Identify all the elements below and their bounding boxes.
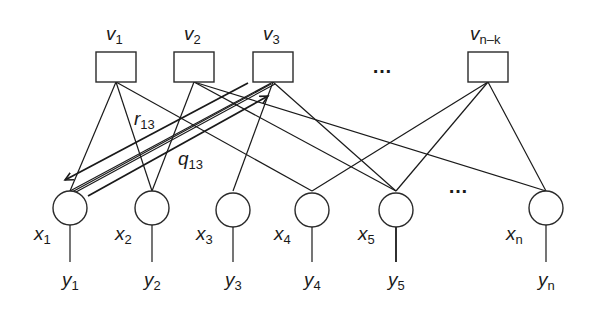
check-node-v1	[96, 52, 136, 82]
edge-v2-xn	[194, 82, 546, 191]
variable-node-x1	[53, 191, 87, 225]
edge-v2-x5	[194, 82, 396, 191]
label-y5: y5	[386, 269, 405, 293]
variable-node-x4	[295, 193, 329, 227]
observation-links	[70, 225, 546, 262]
arrow-q13-icon	[88, 96, 268, 196]
label-xn: xn	[505, 223, 523, 247]
label-x2: x2	[114, 223, 132, 247]
label-y3: y3	[223, 269, 242, 293]
edge-vnk-x5	[396, 82, 488, 191]
check-nodes	[96, 52, 508, 82]
label-y2: y2	[142, 269, 161, 293]
factor-graph: v1 v2 v3 vn–k … r13 q13 x1 x2 x3 x4 x5 x…	[0, 0, 589, 309]
check-node-vnk	[468, 52, 508, 82]
label-yn: yn	[536, 269, 555, 293]
label-r13: r13	[134, 108, 155, 132]
arrow-r13-icon	[65, 83, 248, 180]
check-ellipsis: …	[372, 55, 392, 77]
label-y1: y1	[60, 269, 79, 293]
variable-nodes	[53, 191, 563, 227]
variable-node-xn	[529, 191, 563, 225]
label-y4: y4	[302, 269, 321, 293]
label-v1: v1	[106, 23, 123, 47]
label-x5: x5	[357, 223, 375, 247]
label-x1: x1	[33, 223, 51, 247]
variable-ellipsis: …	[448, 175, 468, 197]
label-v3: v3	[263, 23, 280, 47]
edge-v3-x1	[70, 82, 273, 191]
variable-node-x5	[379, 193, 413, 227]
variable-node-x2	[135, 191, 169, 225]
edge-v3-x3	[233, 82, 273, 191]
label-x3: x3	[195, 223, 213, 247]
check-node-v3	[253, 52, 293, 82]
edges	[70, 82, 546, 191]
observation-labels: y1 y2 y3 y4 y5 yn	[60, 269, 555, 293]
label-x4: x4	[273, 223, 291, 247]
edge-vnk-xn	[488, 82, 546, 191]
check-node-v2	[174, 52, 214, 82]
variable-node-x3	[216, 193, 250, 227]
edge-v2-x2	[152, 82, 194, 191]
highlighted-edge-v3-x1	[72, 84, 275, 192]
edge-v3-x5	[273, 82, 396, 191]
label-vnk: vn–k	[470, 23, 501, 47]
check-labels: v1 v2 v3 vn–k …	[106, 23, 501, 77]
label-q13: q13	[178, 148, 203, 172]
label-v2: v2	[184, 23, 201, 47]
